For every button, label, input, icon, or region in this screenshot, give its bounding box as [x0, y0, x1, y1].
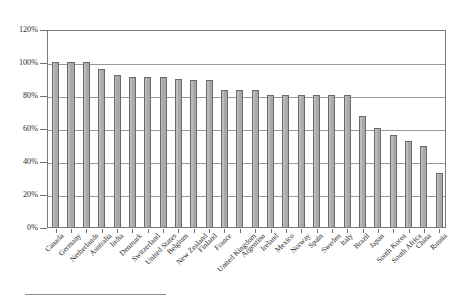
x-tick-mark — [102, 229, 103, 233]
x-tick-mark — [378, 229, 379, 233]
x-tick-mark — [117, 229, 118, 233]
x-tick-label: Argentina — [240, 232, 267, 259]
x-tick-mark — [255, 229, 256, 233]
x-tick-mark — [271, 229, 272, 233]
x-tick-label: France — [214, 232, 234, 252]
y-axis: 0%20%40%60%80%100%120% — [0, 0, 47, 306]
x-tick-label: South Africa — [390, 232, 423, 265]
x-tick-label: India — [108, 232, 124, 248]
y-tick-mark — [40, 30, 47, 31]
x-tick-label: Finland — [197, 232, 219, 254]
x-tick-mark — [71, 229, 72, 233]
x-tick-mark — [393, 229, 394, 233]
y-tick-mark — [40, 228, 47, 229]
y-tick-mark — [40, 63, 47, 64]
x-tick-mark — [224, 229, 225, 233]
x-tick-mark — [424, 229, 425, 233]
x-tick-mark — [209, 229, 210, 233]
x-tick-label: Russia — [429, 232, 449, 252]
x-tick-label: United Kingdom — [216, 232, 258, 274]
x-axis-ticks — [48, 31, 445, 227]
x-tick-label: New Zealand — [175, 232, 209, 266]
x-tick-label: Spain — [307, 232, 325, 250]
y-tick-label: 120% — [19, 26, 38, 34]
y-tick-label: 60% — [23, 125, 38, 133]
x-tick-label: Japan — [368, 232, 386, 250]
y-tick-mark — [40, 129, 47, 130]
plot-area — [47, 30, 446, 228]
x-tick-label: United States — [144, 232, 178, 266]
x-tick-mark — [347, 229, 348, 233]
x-tick-label: Ireland — [259, 232, 280, 253]
x-tick-label: Netherlands — [69, 232, 100, 263]
x-tick-mark — [363, 229, 364, 233]
x-tick-label: Germany — [57, 232, 82, 257]
x-tick-label: Denmark — [118, 232, 143, 257]
x-tick-label: Belgium — [165, 232, 189, 256]
y-tick-label: 0% — [27, 224, 38, 232]
y-tick-label: 20% — [23, 191, 38, 199]
x-tick-mark — [132, 229, 133, 233]
x-tick-mark — [194, 229, 195, 233]
chart-screenshot: 0%20%40%60%80%100%120% CanadaGermanyNeth… — [0, 0, 456, 306]
x-tick-mark — [332, 229, 333, 233]
y-tick-mark — [40, 96, 47, 97]
x-tick-label: Canada — [44, 232, 65, 253]
x-tick-label: China — [414, 232, 432, 250]
y-tick-mark — [40, 162, 47, 163]
x-tick-mark — [301, 229, 302, 233]
y-tick-mark — [40, 195, 47, 196]
x-tick-mark — [409, 229, 410, 233]
x-tick-mark — [439, 229, 440, 233]
x-tick-label: Australia — [88, 232, 113, 257]
x-tick-mark — [56, 229, 57, 233]
x-tick-label: South Korea — [375, 232, 407, 264]
x-tick-mark — [148, 229, 149, 233]
y-tick-label: 100% — [19, 59, 38, 67]
x-tick-label: Norway — [289, 232, 312, 255]
x-tick-mark — [163, 229, 164, 233]
x-tick-mark — [86, 229, 87, 233]
x-tick-mark — [240, 229, 241, 233]
x-tick-mark — [286, 229, 287, 233]
x-tick-mark — [317, 229, 318, 233]
y-tick-label: 80% — [23, 92, 38, 100]
x-tick-label: Switzerland — [130, 232, 161, 263]
x-tick-mark — [178, 229, 179, 233]
y-tick-label: 40% — [23, 158, 38, 166]
x-tick-label: Brazil — [353, 232, 371, 250]
x-tick-label: Mexico — [274, 232, 296, 254]
x-tick-label: Italy — [339, 232, 354, 247]
footnote-separator — [25, 294, 166, 295]
x-tick-label: Sweden — [320, 232, 342, 254]
